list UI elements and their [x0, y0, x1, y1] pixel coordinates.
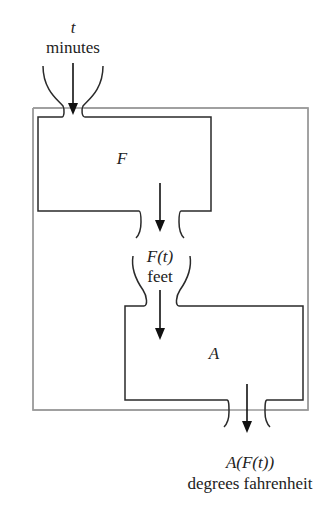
input-unit-label: minutes — [46, 38, 100, 57]
arrow-input — [68, 63, 78, 115]
output-expression-label: A(F(t)) — [225, 453, 274, 472]
arrow-a-input — [155, 290, 165, 340]
composite-function-diagram: t minutes F F(t) feet A A(F(t)) degrees … — [0, 0, 333, 509]
intermediate-unit-label: feet — [147, 267, 173, 286]
arrow-a-output — [242, 384, 252, 433]
output-unit-label: degrees fahrenheit — [187, 474, 312, 493]
box-a-label: A — [208, 344, 220, 363]
arrow-f-output — [155, 183, 165, 232]
middle-funnel-left — [125, 256, 229, 427]
input-variable-label: t — [71, 18, 77, 37]
box-f-label: F — [116, 149, 128, 168]
intermediate-expression-label: F(t) — [146, 247, 174, 266]
middle-funnel-right — [176, 256, 303, 427]
input-funnel-right — [82, 66, 211, 238]
